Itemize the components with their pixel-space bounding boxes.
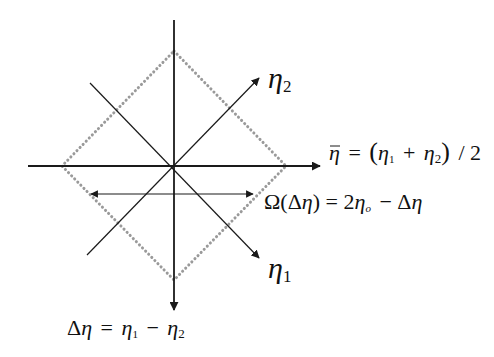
eta-bar-label: η = (η1 + η2) / 2 [329, 137, 481, 168]
eta1-label: η1 [268, 251, 291, 286]
svg-text:η = (η1 +: η = (η1 + η2) / 2 [329, 137, 481, 168]
diagram-canvas: η2 η1 η = (η1 + η2) / 2 Ω(Δη) = 2ηo − Δη… [0, 0, 494, 357]
delta-eta-label: Δη = η1 − η2 [67, 315, 185, 343]
eta2-label: η2 [268, 61, 291, 96]
omega-label: Ω(Δη) = 2ηo − Δη [264, 189, 422, 217]
